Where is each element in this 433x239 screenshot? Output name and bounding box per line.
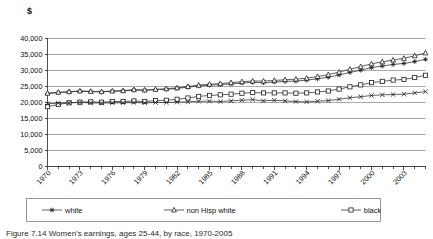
- x-tick-label: 1979: [132, 169, 150, 187]
- y-tick-label: 25,000: [20, 82, 42, 91]
- legend-label: white: [65, 206, 83, 215]
- gridlines: [48, 39, 426, 167]
- legend-label: black: [364, 206, 382, 215]
- legend-label: non Hisp white: [187, 206, 236, 215]
- star-marker-icon: [41, 205, 63, 215]
- x-tick-label: 1988: [229, 169, 247, 187]
- x-tick-label: 1997: [326, 169, 344, 187]
- x-tick-label: 1994: [294, 169, 312, 187]
- x-tick-label: 1985: [197, 169, 215, 187]
- x-tick-label: 1982: [164, 169, 182, 187]
- y-tick-label: 0: [38, 162, 42, 171]
- y-tick-label: 35,000: [20, 50, 42, 59]
- data-series-layer: [45, 50, 428, 108]
- x-tick-label: 1970: [35, 169, 53, 187]
- x-tick-label: 1973: [67, 169, 85, 187]
- figure-container: $ 05,00010,00015,00020,00025,00030,00035…: [0, 0, 433, 239]
- x-tick-label: 2000: [359, 169, 377, 187]
- x-tick-label: 2003: [391, 169, 409, 187]
- x-axis-tick-labels: 1970197319761979198219851988199119941997…: [35, 169, 409, 187]
- x-tick-label: 1991: [261, 169, 279, 187]
- y-tick-label: 30,000: [20, 66, 42, 75]
- y-tick-label: 10,000: [20, 130, 42, 139]
- x-tick-label: 1976: [99, 169, 117, 187]
- y-tick-label: 15,000: [20, 114, 42, 123]
- chart-legend: whitenon Hisp whiteblackLatina: [26, 198, 381, 222]
- legend-item-non-hisp-white[interactable]: non Hisp white: [163, 205, 236, 215]
- y-tick-label: 20,000: [20, 98, 42, 107]
- square-marker-icon: [340, 205, 362, 215]
- series-non-hisp-white: [45, 50, 428, 95]
- legend-item-white[interactable]: white: [41, 205, 83, 215]
- y-axis-tick-labels: 05,00010,00015,00020,00025,00030,00035,0…: [20, 34, 42, 171]
- legend-item-black[interactable]: black: [340, 205, 382, 215]
- y-tick-label: 40,000: [20, 34, 42, 43]
- triangle-marker-icon: [163, 205, 185, 215]
- y-tick-label: 5,000: [24, 146, 42, 155]
